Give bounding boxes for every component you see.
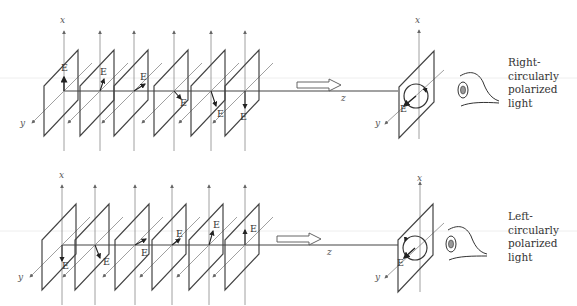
field-label-e: E [400,103,407,114]
y-axis-label: y [18,272,23,282]
x-axis-label: x [60,15,65,25]
left-circular-caption: Left- circularly polarized light [508,210,559,264]
left-panel [30,182,487,305]
eye-icon [446,227,487,260]
right-panel [32,30,499,151]
propagation-arrow-icon [277,233,321,245]
field-label-e: E [140,71,147,82]
field-label-e: E [103,256,110,267]
field-label-e: E [100,66,107,77]
y-axis-label: y [375,272,380,282]
propagation-arrow-icon [297,79,341,91]
field-label-e: E [217,108,224,119]
x-axis-label: x [417,173,422,183]
field-label-e: E [250,223,257,234]
field-label-e: E [141,247,148,258]
z-axis-label: z [341,93,346,103]
y-axis-label: y [20,118,25,128]
field-label-e: E [397,257,404,268]
right-circular-caption: Right- circularly polarized light [508,56,559,110]
field-label-e: E [240,111,247,122]
field-label-e: E [213,219,220,230]
x-axis-label: x [415,15,420,25]
field-label-e: E [176,228,183,239]
field-label-e: E [61,62,68,73]
field-label-e: E [62,260,69,271]
polarization-diagram: x y z x y E E E E E E E Right- circularl… [0,0,577,306]
field-label-e: E [180,97,187,108]
diagram-canvas [0,0,577,306]
y-axis-label: y [375,118,380,128]
z-axis-label: z [327,247,332,257]
x-axis-label: x [59,170,64,180]
